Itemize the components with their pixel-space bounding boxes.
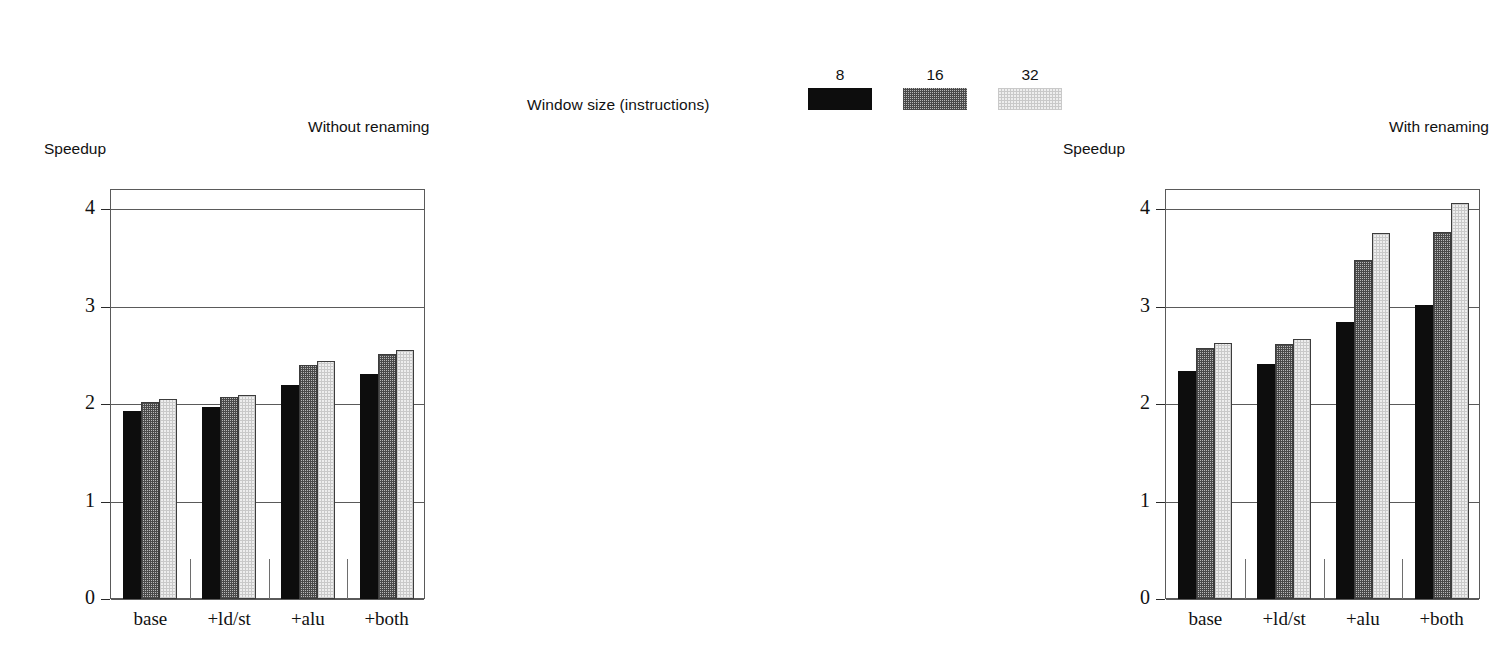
bar-right-base-w8 xyxy=(1178,371,1196,599)
bar-right-base-w32 xyxy=(1214,343,1232,599)
x-axis-label-alu: +alu xyxy=(1324,608,1403,630)
y-axis-tick-label-2: 2 xyxy=(65,391,95,414)
y-axis-tick-0 xyxy=(101,599,110,600)
bar-left-base-w8 xyxy=(123,411,141,599)
y-axis-tick-label-2: 2 xyxy=(1120,391,1150,414)
bar-left-both-w32 xyxy=(396,350,414,599)
chart-title-with-renaming: With renaming xyxy=(1389,118,1489,136)
chart-title-without-renaming: Without renaming xyxy=(308,118,429,136)
x-axis-group-separator xyxy=(269,559,270,599)
bar-right-alu-w16 xyxy=(1354,260,1372,599)
y-axis-tick-label-1: 1 xyxy=(1120,489,1150,512)
plot-area-right: 01234base+ld/st+alu+both xyxy=(1165,189,1480,599)
bar-right-both-w16 xyxy=(1433,232,1451,599)
x-axis-label-both: +both xyxy=(1402,608,1481,630)
bar-right-ldst-w16 xyxy=(1275,344,1293,599)
y-axis-tick-1 xyxy=(1156,502,1165,503)
x-axis-label-alu: +alu xyxy=(269,608,348,630)
x-axis-baseline xyxy=(111,599,424,600)
y-axis-label-left: Speedup xyxy=(44,140,106,158)
x-axis-label-ldst: +ld/st xyxy=(1245,608,1324,630)
y-axis-label-right: Speedup xyxy=(1063,140,1125,158)
bar-left-both-w16 xyxy=(378,354,396,599)
x-axis-label-ldst: +ld/st xyxy=(190,608,269,630)
y-axis-tick-label-4: 4 xyxy=(1120,196,1150,219)
chart-panel-without-renaming: Speedup Without renaming 01234base+ld/st… xyxy=(0,0,540,662)
bar-left-both-w8 xyxy=(360,374,378,599)
gridline-4 xyxy=(111,209,424,210)
y-axis-tick-4 xyxy=(1156,209,1165,210)
bar-left-ldst-w32 xyxy=(238,395,256,599)
y-axis-tick-2 xyxy=(101,404,110,405)
y-axis-tick-3 xyxy=(1156,307,1165,308)
y-axis-tick-1 xyxy=(101,502,110,503)
bar-right-both-w32 xyxy=(1451,203,1469,599)
gridline-4 xyxy=(1166,209,1479,210)
bar-left-base-w16 xyxy=(141,402,159,599)
x-axis-group-separator xyxy=(1402,559,1403,599)
gridline-3 xyxy=(111,307,424,308)
y-axis-tick-3 xyxy=(101,307,110,308)
bar-left-ldst-w8 xyxy=(202,407,220,599)
bar-right-both-w8 xyxy=(1415,305,1433,599)
bar-right-base-w16 xyxy=(1196,348,1214,599)
x-axis-label-base: base xyxy=(1166,608,1245,630)
y-axis-tick-4 xyxy=(101,209,110,210)
bar-left-alu-w32 xyxy=(317,361,335,599)
bar-left-alu-w16 xyxy=(299,365,317,599)
x-axis-group-separator xyxy=(190,559,191,599)
y-axis-tick-2 xyxy=(1156,404,1165,405)
bar-left-base-w32 xyxy=(159,399,177,599)
x-axis-label-base: base xyxy=(111,608,190,630)
y-axis-tick-label-0: 0 xyxy=(1120,586,1150,609)
x-axis-group-separator xyxy=(1324,559,1325,599)
y-axis-tick-label-3: 3 xyxy=(1120,294,1150,317)
bar-right-alu-w32 xyxy=(1372,233,1390,599)
y-axis-tick-label-1: 1 xyxy=(65,489,95,512)
x-axis-label-both: +both xyxy=(347,608,426,630)
y-axis-tick-0 xyxy=(1156,599,1165,600)
bar-right-ldst-w32 xyxy=(1293,339,1311,599)
x-axis-group-separator xyxy=(347,559,348,599)
chart-panel-with-renaming: Speedup With renaming 01234base+ld/st+al… xyxy=(540,0,1081,662)
bar-left-alu-w8 xyxy=(281,385,299,599)
bar-left-ldst-w16 xyxy=(220,397,238,599)
bar-right-alu-w8 xyxy=(1336,322,1354,599)
y-axis-tick-label-4: 4 xyxy=(65,196,95,219)
plot-area-left: 01234base+ld/st+alu+both xyxy=(110,189,425,599)
bar-right-ldst-w8 xyxy=(1257,364,1275,599)
x-axis-baseline xyxy=(1166,599,1479,600)
y-axis-tick-label-0: 0 xyxy=(65,586,95,609)
y-axis-tick-label-3: 3 xyxy=(65,294,95,317)
x-axis-group-separator xyxy=(1245,559,1246,599)
